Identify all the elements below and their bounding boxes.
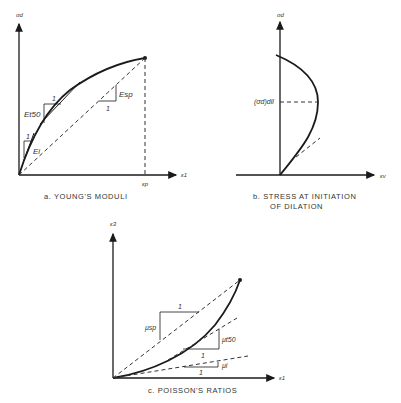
secant-ratio-label: μsp: [144, 324, 156, 332]
unit-label: 1: [26, 133, 30, 140]
panel-dilation-stress: σd εv (σd)dil b. STRESS AT INITIATION OF…: [236, 12, 387, 211]
x-axis-label: ε1: [181, 172, 187, 178]
y-axis-label: ε3: [110, 221, 117, 227]
unit-label: 1: [199, 369, 203, 376]
caption: a. YOUNG'S MODULI: [44, 192, 128, 201]
unit-label: 1: [106, 105, 110, 112]
tangent-modulus-label: Et50: [24, 110, 41, 119]
tangent-50-line: [40, 82, 80, 124]
initial-tangent-dashed: [113, 356, 248, 378]
y-axis-label: σd: [16, 12, 24, 18]
secant-dashed: [113, 280, 240, 378]
initial-slope-triangle: [184, 362, 218, 367]
initial-modulus-label: Ei: [33, 147, 40, 156]
caption: c. POISSON'S RATIOS: [148, 386, 237, 395]
tangent-ratio-label: μt50: [221, 336, 236, 344]
caption-line1: b. STRESS AT INITIATION: [253, 192, 356, 201]
y-axis-label: σd: [277, 12, 285, 18]
unit-label: 1: [178, 303, 182, 310]
dilation-stress-label: (σd)dil: [254, 98, 274, 106]
unit-label: 1: [52, 95, 56, 102]
linear-extension-dashed: [296, 138, 320, 157]
secant-modulus-label: Esp: [119, 90, 133, 99]
initial-ratio-label: μi: [221, 362, 228, 370]
unit-label: 1: [201, 352, 205, 359]
caption-line2: OF DILATION: [270, 202, 323, 211]
x-axis-label: ε1: [279, 375, 285, 381]
panel-youngs-moduli: σd ε1 εp 1 Ei 1 Et50 1 Esp a. YOUNG'S MO…: [16, 12, 187, 201]
peak-strain-label: εp: [142, 181, 149, 187]
panel-poissons-ratios: ε3 ε1 1 μsp 1 μt50 1 μi c. POISSON'S RAT…: [110, 221, 285, 395]
x-axis-label: εv: [380, 173, 387, 179]
diagram-canvas: σd ε1 εp 1 Ei 1 Et50 1 Esp a. YOUNG'S MO…: [0, 0, 401, 403]
volumetric-strain-curve: [276, 55, 318, 175]
